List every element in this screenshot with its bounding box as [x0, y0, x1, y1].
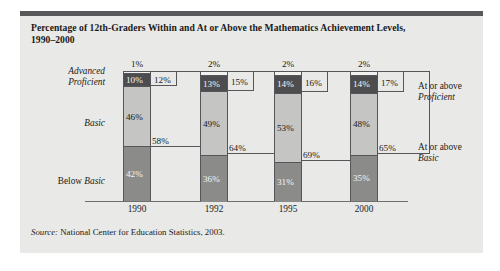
stacked-bar-1990[interactable]: 10% 46% 42% [123, 71, 151, 201]
bracket-value-basic-1990: 58% [152, 136, 169, 146]
advanced-cap-value-2000: 2% [350, 59, 378, 69]
source-text: National Center for Education Statistics… [58, 227, 225, 237]
stacked-bar-2000[interactable]: 14% 48% 35% [350, 71, 378, 201]
stacked-bar-1992[interactable]: 13% 49% 36% [200, 71, 228, 201]
segment-basic-1992: 49% [201, 91, 227, 155]
bracket-basic-1995 [302, 71, 354, 161]
bracket-value-basic-1995: 69% [303, 150, 320, 160]
row-label-basic: Basic [28, 118, 105, 129]
segment-value-basic-1992: 49% [203, 119, 220, 129]
bracket-basic-1992 [228, 71, 280, 154]
segment-below-basic-1992: 36% [201, 155, 227, 202]
x-tick-label-1990: 1990 [116, 204, 158, 214]
segment-basic-1995: 53% [275, 93, 301, 162]
figure-container: Percentage of 12th-Graders Within and At… [20, 11, 483, 253]
segment-value-below-basic-1995: 31% [277, 177, 294, 187]
segment-value-below-basic-1990: 42% [126, 169, 143, 179]
legend-at-or-above-basic: At or above Basic [418, 142, 462, 165]
row-label-advanced: Advanced [28, 66, 105, 77]
source-note: Source: National Center for Education St… [31, 227, 225, 237]
advanced-cap-value-1990: 1% [123, 59, 151, 69]
segment-below-basic-1990: 42% [124, 146, 150, 201]
segment-value-proficient-1992: 13% [203, 79, 220, 89]
segment-value-basic-2000: 48% [353, 119, 370, 129]
segment-proficient-1990: 10% [124, 73, 150, 86]
segment-below-basic-1995: 31% [275, 162, 301, 202]
segment-value-proficient-1990: 10% [126, 75, 143, 85]
segment-value-below-basic-1992: 36% [203, 174, 220, 184]
segment-proficient-1995: 14% [275, 75, 301, 93]
row-label-below-prefix: Below [58, 176, 85, 186]
advanced-cap-value-1992: 2% [200, 59, 228, 69]
legend-proficient-line1: At or above [418, 81, 462, 91]
segment-value-below-basic-2000: 35% [353, 173, 370, 183]
x-axis-line [85, 201, 408, 202]
x-tick-label-2000: 2000 [343, 204, 385, 214]
bracket-value-basic-1992: 64% [229, 143, 246, 153]
chart-plot-area: Advanced Proficient Basic Below Basic 1%… [20, 11, 483, 248]
segment-basic-1990: 46% [124, 86, 150, 146]
segment-basic-2000: 48% [351, 93, 377, 155]
segment-value-basic-1990: 46% [126, 112, 143, 122]
row-label-proficient: Proficient [28, 77, 105, 88]
segment-proficient-2000: 14% [351, 75, 377, 93]
advanced-cap-value-1995: 2% [274, 59, 302, 69]
x-tick-label-1992: 1992 [193, 204, 235, 214]
x-tick-label-1995: 1995 [267, 204, 309, 214]
segment-value-proficient-1995: 14% [277, 79, 294, 89]
segment-below-basic-2000: 35% [351, 155, 377, 201]
legend-basic-line1: At or above [418, 142, 462, 152]
segment-proficient-1992: 13% [201, 75, 227, 92]
row-label-below-basic-italic: Basic [84, 176, 105, 186]
row-label-below-basic: Below Basic [28, 176, 105, 187]
source-label: Source: [31, 227, 58, 237]
segment-value-proficient-2000: 14% [353, 79, 370, 89]
segment-value-basic-1995: 53% [277, 123, 294, 133]
legend-basic-line2: Basic [418, 153, 462, 164]
stacked-bar-1995[interactable]: 14% 53% 31% [274, 71, 302, 201]
bracket-value-basic-2000: 65% [379, 143, 396, 153]
legend-at-or-above-proficient: At or above Proficient [418, 81, 462, 104]
legend-proficient-line2: Proficient [418, 92, 462, 103]
